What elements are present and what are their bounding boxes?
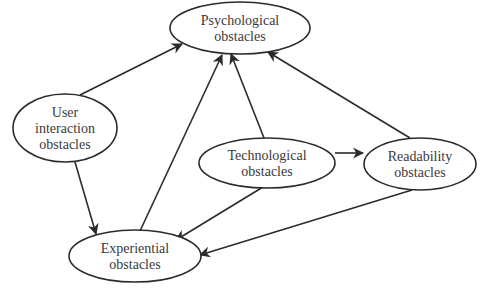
node-ellipse xyxy=(199,138,335,188)
edge-user-interaction-to-psychological xyxy=(80,44,182,95)
node-label-line: obstacles xyxy=(109,257,160,272)
nodes-layer: PsychologicalobstaclesUserinteractionobs… xyxy=(13,2,476,282)
node-label-line: interaction xyxy=(35,121,95,136)
edge-experiential-to-psychological xyxy=(140,55,222,231)
edge-readability-to-experiential xyxy=(200,190,412,255)
diagram-svg: PsychologicalobstaclesUserinteractionobs… xyxy=(0,0,480,291)
node-readability: Readabilityobstacles xyxy=(364,138,476,190)
node-user-interaction: Userinteractionobstacles xyxy=(13,94,117,162)
node-experiential: Experientialobstacles xyxy=(69,230,201,282)
node-technological: Technologicalobstacles xyxy=(199,138,335,188)
node-psychological: Psychologicalobstacles xyxy=(170,2,310,54)
node-label-line: User xyxy=(52,105,79,120)
node-ellipse xyxy=(364,138,476,190)
edge-user-interaction-to-experiential xyxy=(75,162,96,234)
node-label-line: obstacles xyxy=(214,29,265,44)
node-label-line: obstacles xyxy=(39,137,90,152)
edge-technological-to-experiential xyxy=(176,187,263,240)
edge-readability-to-psychological xyxy=(268,52,410,138)
node-ellipse xyxy=(69,230,201,282)
node-ellipse xyxy=(170,2,310,54)
node-label-line: Psychological xyxy=(201,13,280,28)
obstacle-relationship-diagram: PsychologicalobstaclesUserinteractionobs… xyxy=(0,0,480,291)
node-label-line: Readability xyxy=(388,149,453,164)
node-label-line: Experiential xyxy=(101,241,170,256)
node-label-line: Technological xyxy=(227,148,306,163)
edge-technological-to-psychological xyxy=(231,54,264,138)
node-label-line: obstacles xyxy=(241,164,292,179)
node-label-line: obstacles xyxy=(394,165,445,180)
